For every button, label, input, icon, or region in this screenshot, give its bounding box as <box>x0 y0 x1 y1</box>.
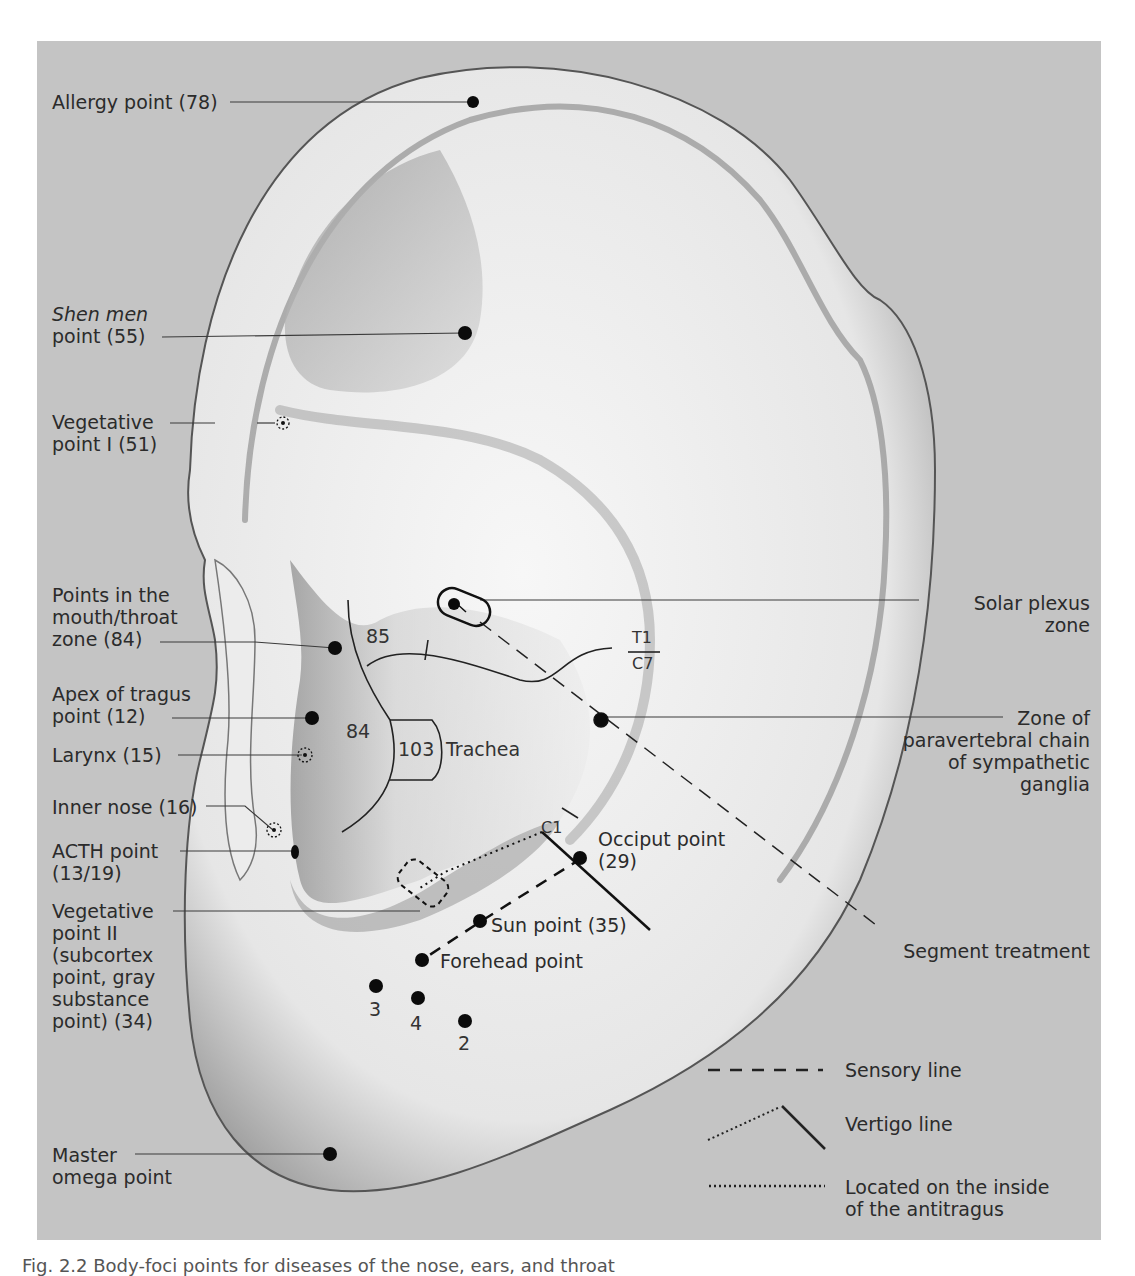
point-mouth-throat-84 <box>328 641 342 655</box>
zone-84-label: 84 <box>346 720 370 742</box>
point-sun-35 <box>473 914 487 928</box>
point-forehead <box>415 953 429 967</box>
label-apex-of-tragus: Apex of tragus point (12) <box>52 683 191 727</box>
c7-label: C7 <box>632 654 653 673</box>
point-acth-13-19 <box>291 845 299 859</box>
label-point-3: 3 <box>369 998 381 1020</box>
label-acth-point: ACTH point (13/19) <box>52 840 158 884</box>
label-segment-treatment: Segment treatment <box>903 940 1090 962</box>
trachea-label: Trachea <box>446 738 520 760</box>
figure-caption: Fig. 2.2 Body-foci points for diseases o… <box>22 1255 615 1276</box>
point-2 <box>458 1014 472 1028</box>
label-point-4: 4 <box>410 1012 422 1034</box>
t1-label: T1 <box>632 628 652 647</box>
label-occiput-point: Occiput point (29) <box>598 828 725 872</box>
label-point-2: 2 <box>458 1032 470 1054</box>
zone-103-label: 103 <box>398 738 434 760</box>
point-apex-tragus-12 <box>305 711 319 725</box>
label-shen-men-point: Shen men point (55) <box>52 303 148 347</box>
label-master-omega-point: Master omega point <box>52 1144 172 1188</box>
legend-vertigo-line: Vertigo line <box>845 1113 953 1135</box>
label-sun-point: Sun point (35) <box>491 914 627 936</box>
label-larynx: Larynx (15) <box>52 744 162 766</box>
label-paravertebral-chain: Zone of paravertebral chain of sympathet… <box>903 707 1090 795</box>
label-mouth-throat-zone: Points in the mouth/throat zone (84) <box>52 584 178 650</box>
zone-85-label: 85 <box>366 625 390 647</box>
point-occiput-29 <box>573 851 587 865</box>
label-inner-nose: Inner nose (16) <box>52 796 198 818</box>
legend-graphics <box>708 1070 825 1186</box>
point-3 <box>369 979 383 993</box>
label-allergy-point: Allergy point (78) <box>52 91 218 113</box>
legend-vertigo-dotted <box>708 1107 780 1140</box>
legend-sensory-line: Sensory line <box>845 1059 962 1081</box>
label-solar-plexus-zone: Solar plexus zone <box>974 592 1090 636</box>
point-master-omega <box>323 1147 337 1161</box>
label-vegetative-point-2: Vegetative point II (subcortex point, gr… <box>52 900 155 1032</box>
point-shen-men-55 <box>458 326 472 340</box>
legend-vertigo-solid <box>782 1106 825 1149</box>
ear-outline <box>185 67 935 1191</box>
label-forehead-point: Forehead point <box>440 950 583 972</box>
point-4 <box>411 991 425 1005</box>
point-solar-plexus <box>448 598 460 610</box>
legend-located-inside-antitragus: Located on the inside of the antitragus <box>845 1176 1049 1220</box>
point-allergy-78 <box>467 96 479 108</box>
label-vegetative-point-1: Vegetative point I (51) <box>52 411 157 455</box>
c1-label: C1 <box>541 818 562 837</box>
